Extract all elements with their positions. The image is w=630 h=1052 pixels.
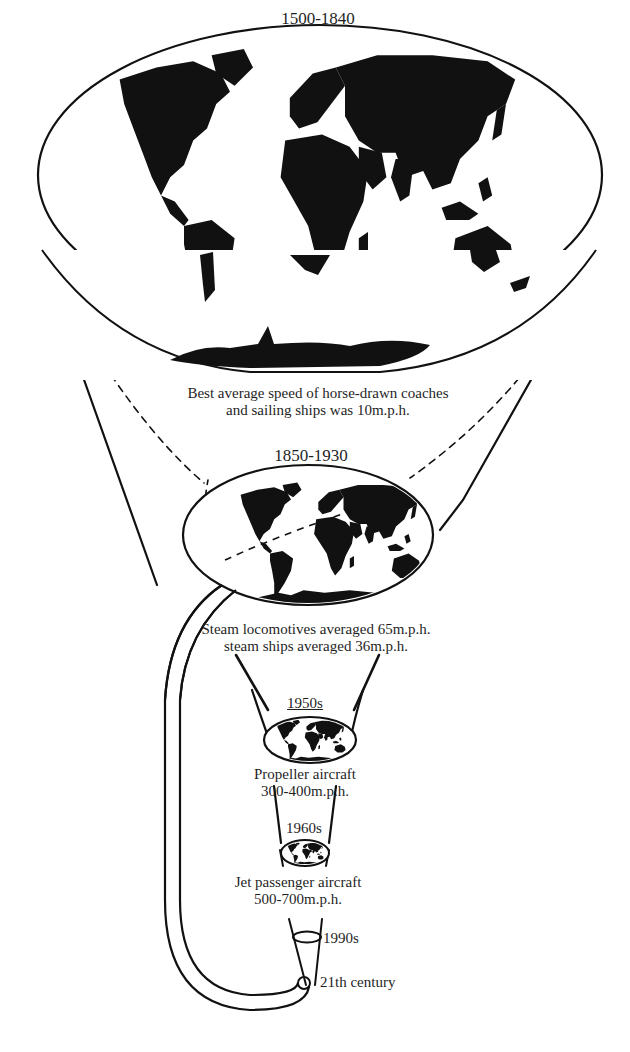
caption-line: and sailing ships was 10m.p.h. <box>187 402 448 419</box>
funnel-connector-4 <box>289 919 322 989</box>
caption-line: 500-700m.p.h. <box>235 891 362 908</box>
globe-1850-1930 <box>165 465 433 700</box>
caption-1500-1840: Best average speed of horse-drawn coache… <box>187 385 448 418</box>
caption-line: Steam locomotives averaged 65m.p.h. <box>201 621 430 638</box>
era-label-21st-century: 21th century <box>320 974 395 991</box>
era-label-1500-1840: 1500-1840 <box>281 10 355 29</box>
caption-line: Propeller aircraft <box>254 766 356 783</box>
caption-line: Best average speed of horse-drawn coache… <box>187 385 448 402</box>
era-label-1950s: 1950s <box>287 695 323 712</box>
globe-1950s <box>264 717 356 763</box>
globe-1960s <box>281 840 329 866</box>
caption-1950s: Propeller aircraft 300-400m.p.h. <box>254 766 356 799</box>
caption-line: 300-400m.p.h. <box>254 783 356 800</box>
caption-line: Jet passenger aircraft <box>235 874 362 891</box>
caption-1960s: Jet passenger aircraft 500-700m.p.h. <box>235 874 362 907</box>
era-label-1850-1930: 1850-1930 <box>274 447 348 466</box>
caption-1850-1930: Steam locomotives averaged 65m.p.h. stea… <box>201 621 430 654</box>
era-label-1990s: 1990s <box>323 930 359 947</box>
caption-line: steam ships averaged 36m.p.h. <box>201 638 430 655</box>
globe-1990s <box>293 932 321 943</box>
era-label-1960s: 1960s <box>286 820 322 837</box>
globe-1500-1840 <box>38 25 602 380</box>
